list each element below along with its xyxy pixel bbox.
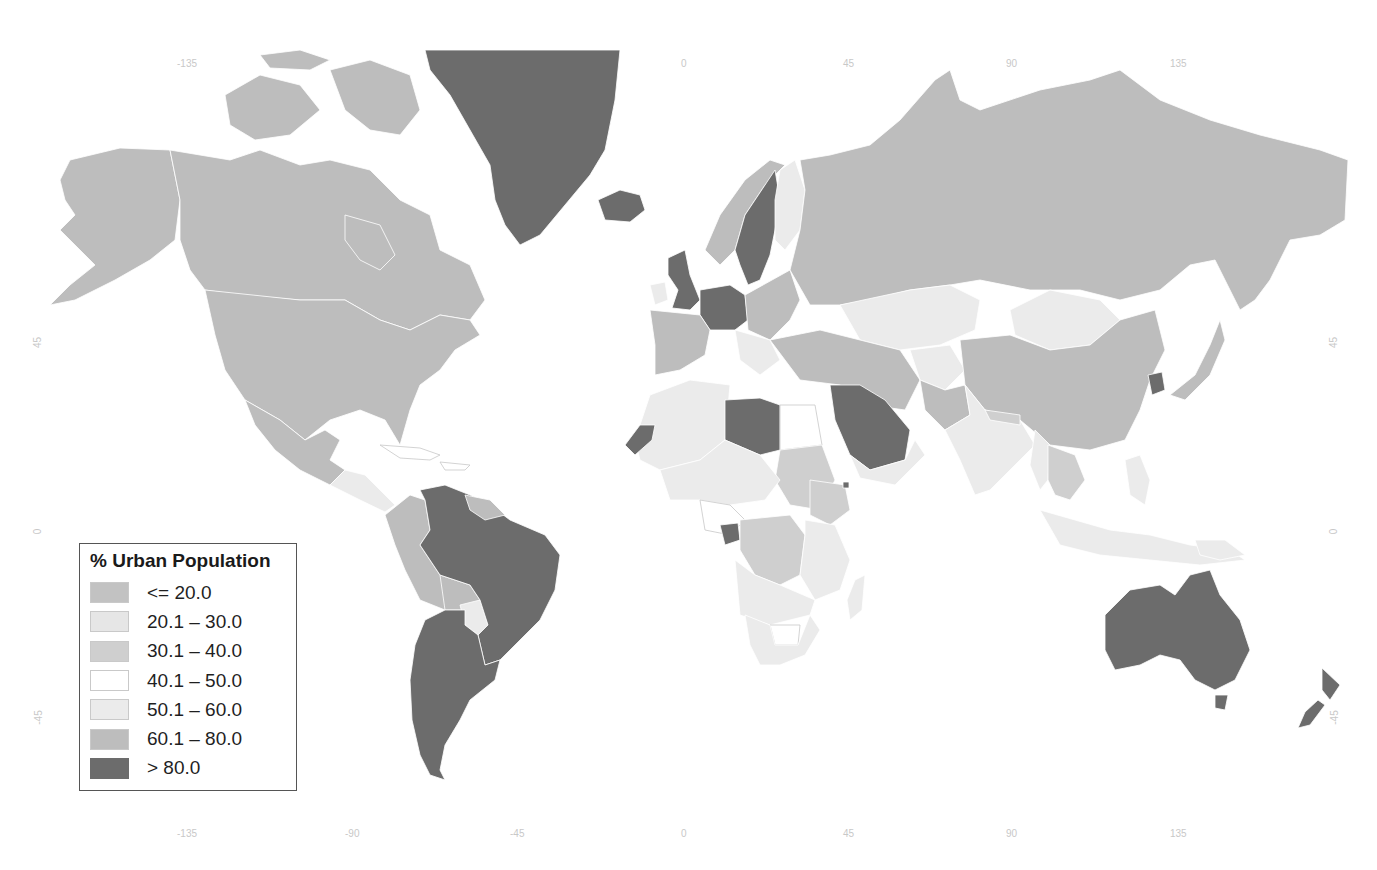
map-legend: % Urban Population <= 20.0 20.1 – 30.0 3… [79, 543, 297, 791]
legend-label: <= 20.0 [147, 582, 211, 604]
lon-tick-bottom-90: 90 [1006, 828, 1017, 839]
oceania [1105, 540, 1340, 728]
region-germany [700, 285, 748, 330]
legend-label: 20.1 – 30.0 [147, 611, 242, 633]
lon-tick-bottom-135: 135 [1170, 828, 1187, 839]
region-new-zealand-south [1298, 700, 1325, 728]
legend-label: 60.1 – 80.0 [147, 728, 242, 750]
region-tasmania [1215, 695, 1228, 710]
region-uk [668, 250, 700, 310]
region-ireland [650, 282, 668, 305]
legend-label: 30.1 – 40.0 [147, 640, 242, 662]
legend-title: % Urban Population [90, 550, 286, 572]
legend-swatch [90, 699, 129, 720]
region-greenland [425, 50, 620, 245]
region-egypt [780, 405, 822, 450]
region-caribbean [380, 445, 470, 470]
lon-tick-top-135: 135 [1170, 58, 1187, 69]
legend-swatch [90, 641, 129, 662]
region-new-zealand-north [1322, 668, 1340, 700]
south-america [385, 485, 560, 780]
lon-tick-top-neg135: -135 [177, 58, 197, 69]
region-iceland [598, 190, 645, 222]
region-japan [1170, 320, 1225, 400]
region-australia [1105, 570, 1250, 690]
region-philippines [1125, 455, 1150, 505]
region-south-korea [1148, 372, 1165, 395]
africa [625, 380, 865, 665]
legend-item: 60.1 – 80.0 [90, 724, 286, 753]
lat-tick-right-0: 0 [1328, 529, 1339, 535]
region-russia [790, 70, 1348, 310]
legend-label: 50.1 – 60.0 [147, 699, 242, 721]
lat-tick-left-45: 45 [32, 337, 43, 348]
legend-swatch [90, 670, 129, 691]
legend-swatch [90, 729, 129, 750]
lon-tick-top-0: 0 [681, 58, 687, 69]
region-thailand-laos [1048, 445, 1085, 500]
lon-tick-bottom-neg45: -45 [510, 828, 524, 839]
lat-tick-left-neg45: -45 [33, 710, 44, 724]
region-madagascar [847, 575, 865, 620]
legend-item: <= 20.0 [90, 578, 286, 607]
legend-swatch [90, 758, 129, 779]
region-alaska [50, 148, 180, 305]
legend-label: > 80.0 [147, 757, 200, 779]
region-france-iberia [650, 310, 710, 375]
north-america [50, 50, 485, 512]
lon-tick-top-90: 90 [1006, 58, 1017, 69]
region-central-america [330, 470, 395, 512]
lat-tick-right-neg45: -45 [1329, 710, 1340, 724]
legend-item: 20.1 – 30.0 [90, 607, 286, 636]
legend-item: > 80.0 [90, 754, 286, 783]
lon-tick-top-45: 45 [843, 58, 854, 69]
lon-tick-bottom-45: 45 [843, 828, 854, 839]
asia [770, 285, 1245, 565]
lon-tick-bottom-neg135: -135 [177, 828, 197, 839]
region-djibouti [843, 482, 849, 488]
legend-swatch [90, 611, 129, 632]
region-gabon [720, 523, 740, 545]
region-arctic-archipelago [225, 50, 420, 140]
lat-tick-right-45: 45 [1328, 337, 1339, 348]
lon-tick-bottom-neg90: -90 [345, 828, 359, 839]
region-east-africa [800, 520, 850, 600]
lat-tick-left-0: 0 [32, 529, 43, 535]
legend-swatch [90, 582, 129, 603]
legend-label: 40.1 – 50.0 [147, 670, 242, 692]
legend-item: 40.1 – 50.0 [90, 666, 286, 695]
legend-item: 30.1 – 40.0 [90, 637, 286, 666]
legend-item: 50.1 – 60.0 [90, 695, 286, 724]
lon-tick-bottom-0: 0 [681, 828, 687, 839]
